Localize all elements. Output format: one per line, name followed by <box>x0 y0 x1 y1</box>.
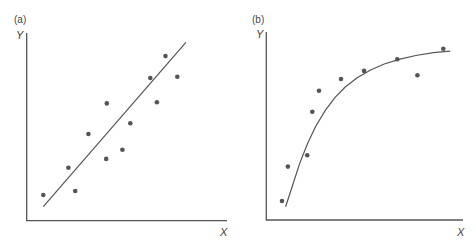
panel-a-data-point <box>66 166 71 171</box>
panel-b-data-point <box>339 77 344 82</box>
panel-a-data-point <box>41 193 46 198</box>
panel-b-data-point <box>415 73 420 78</box>
panel-a-data-point <box>148 76 153 81</box>
panel-b-data-point <box>286 164 291 169</box>
panel-b-data-point <box>317 88 322 93</box>
panel-a-data-point <box>120 147 125 152</box>
chart-figure: (a) Y X (b) Y X <box>0 0 476 249</box>
panel-b-data-point <box>395 57 400 62</box>
panel-a-data-point <box>86 132 91 137</box>
panel-b-data-point <box>310 109 315 114</box>
panel-b: (b) Y X <box>252 14 465 238</box>
panel-a-data-point <box>163 54 168 59</box>
panel-a-label: (a) <box>14 14 26 25</box>
panel-a-fit-line <box>43 42 186 206</box>
panel-b-data-point <box>280 199 285 204</box>
panel-a-data-point <box>104 157 109 162</box>
panel-a-data-point <box>73 189 78 194</box>
panel-a-x-axis-label: X <box>219 226 228 238</box>
panel-b-label: (b) <box>252 14 264 25</box>
panel-a-data-point <box>155 100 160 105</box>
panel-a-data-point <box>175 74 180 79</box>
panel-a-marks <box>41 42 186 206</box>
panel-a-data-point <box>128 121 133 126</box>
panel-a-axes <box>27 33 227 221</box>
panel-b-marks <box>280 46 451 206</box>
panel-b-data-point <box>362 69 367 74</box>
panel-b-data-point <box>305 153 310 158</box>
panel-a: (a) Y X <box>14 14 228 238</box>
panel-b-data-point <box>441 46 446 51</box>
panel-a-data-point <box>105 101 110 106</box>
panel-b-fit-curve <box>286 51 451 207</box>
panel-b-y-axis-label: Y <box>256 28 264 40</box>
panel-b-x-axis-label: X <box>456 226 465 238</box>
panel-b-axes <box>266 32 463 220</box>
panel-a-y-axis-label: Y <box>16 29 24 41</box>
